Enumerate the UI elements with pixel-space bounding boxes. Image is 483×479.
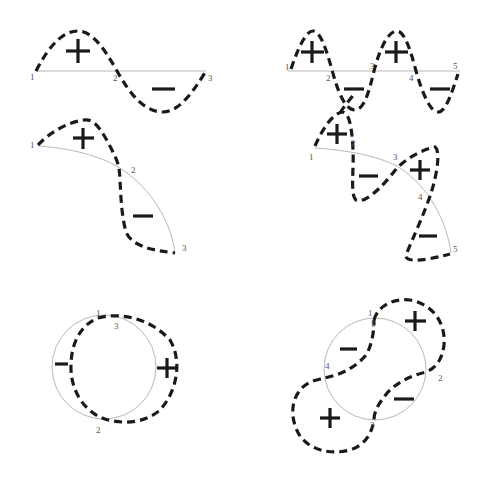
arc-guide <box>38 146 175 253</box>
plus-sign <box>301 41 324 63</box>
node-label-2: 2 <box>438 373 443 383</box>
panel-arc-two-waves: 1 2 3 4 5 <box>309 94 458 260</box>
node-label-3: 3 <box>370 420 375 430</box>
panel-ring-two-waves: 1 2 3 4 5 <box>293 300 444 452</box>
node-label-1: 1 <box>309 152 314 162</box>
node-label-4: 4 <box>325 361 330 371</box>
plus-sign <box>73 128 94 149</box>
node-label-5: 5 <box>371 319 376 329</box>
plus-sign <box>405 311 426 331</box>
node-label-2: 2 <box>113 73 118 83</box>
plus-sign <box>327 124 347 144</box>
node-label-3: 3 <box>114 321 119 331</box>
plus-sign <box>157 358 177 378</box>
panel-line-one-wave: 1 2 3 <box>30 31 213 112</box>
panel-ring-one-wave: 1 3 2 <box>52 308 177 435</box>
node-label-1: 1 <box>285 62 290 72</box>
node-label-5: 5 <box>453 244 458 254</box>
node-label-2: 2 <box>131 165 136 175</box>
panel-arc-one-wave: 1 2 3 <box>30 120 187 253</box>
plus-sign <box>385 41 408 63</box>
plus-sign <box>410 160 430 180</box>
node-label-1: 1 <box>96 308 101 318</box>
node-label-5: 5 <box>453 61 458 71</box>
node-label-1: 1 <box>368 308 373 318</box>
node-label-3: 3 <box>393 152 398 162</box>
node-label-1: 1 <box>30 140 35 150</box>
ring-guide <box>324 318 426 420</box>
node-label-1: 1 <box>30 72 35 82</box>
node-label-2: 2 <box>351 138 356 148</box>
node-label-3: 3 <box>370 61 375 71</box>
wave-curve <box>38 120 175 253</box>
node-label-4: 4 <box>409 73 414 83</box>
standing-waves-diagram: 1 2 3 1 2 3 4 5 <box>0 0 483 479</box>
node-label-3: 3 <box>208 73 213 83</box>
plus-sign <box>66 39 90 63</box>
node-label-3: 3 <box>182 243 187 253</box>
panel-line-two-waves: 1 2 3 4 5 <box>285 31 460 112</box>
node-label-4: 4 <box>418 192 423 202</box>
plus-sign <box>320 408 340 428</box>
ring-guide <box>52 315 156 419</box>
node-label-2: 2 <box>326 73 331 83</box>
node-label-2: 2 <box>96 425 101 435</box>
